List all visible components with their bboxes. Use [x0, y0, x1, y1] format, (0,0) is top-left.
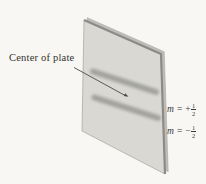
figure-diffraction-plate-diagram: Center of plate m = + 1 2 m = − 1 2: [0, 0, 206, 184]
fraction-numerator: 1: [191, 102, 196, 110]
fraction-denominator: 2: [192, 110, 195, 117]
plate-diagram-canvas: [0, 0, 206, 184]
fraction-denominator: 2: [192, 132, 195, 139]
minus-sign: −: [185, 127, 190, 137]
order-variable: m: [167, 127, 174, 137]
order-label-minus-half: m = − 1 2: [167, 124, 196, 139]
order-label-plus-half: m = + 1 2: [167, 102, 196, 117]
fraction-one-half: 1 2: [191, 102, 196, 117]
equals-sign: =: [177, 127, 182, 137]
equals-sign: =: [177, 105, 182, 115]
fraction-numerator: 1: [191, 124, 196, 132]
center-of-plate-label: Center of plate: [9, 52, 74, 64]
order-variable: m: [167, 105, 174, 115]
fraction-one-half: 1 2: [191, 124, 196, 139]
plus-sign: +: [185, 105, 190, 115]
